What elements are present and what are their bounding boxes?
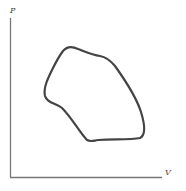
y-axis-label: P bbox=[10, 6, 15, 15]
cycle-loop bbox=[45, 47, 145, 141]
pv-diagram: P V bbox=[0, 0, 186, 191]
pv-diagram-svg bbox=[0, 0, 186, 191]
x-axis-label: V bbox=[165, 168, 171, 177]
